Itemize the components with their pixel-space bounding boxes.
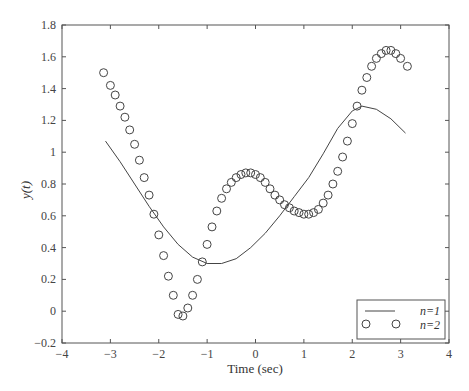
legend-label-n1: n=1: [420, 304, 440, 318]
y-tick-label: 0.6: [41, 209, 56, 223]
x-tick-label: −3: [104, 347, 117, 361]
y-tick-label: −0.2: [34, 336, 56, 350]
x-tick-label: 0: [253, 347, 259, 361]
y-tick-label: 0: [50, 304, 56, 318]
x-tick-label: −2: [152, 347, 165, 361]
x-tick-label: 3: [398, 347, 404, 361]
x-tick-label: 1: [301, 347, 307, 361]
x-tick-label: −4: [56, 347, 69, 361]
y-tick-label: 1.2: [41, 113, 56, 127]
y-tick-label: 1.4: [41, 82, 56, 96]
y-tick-label: 1: [50, 145, 56, 159]
y-tick-label: 1.6: [41, 50, 56, 64]
x-axis-label: Time (sec): [227, 361, 283, 376]
y-axis-label: y(t): [18, 181, 33, 201]
plot-area: [62, 25, 449, 343]
legend: n=1 n=2: [357, 300, 445, 339]
chart-figure: −4−3−2−101234 −0.200.20.40.60.811.21.41.…: [0, 0, 469, 391]
y-tick-labels: −0.200.20.40.60.811.21.41.61.8: [34, 18, 56, 350]
y-tick-label: 0.4: [41, 241, 56, 255]
legend-label-n2: n=2: [420, 318, 440, 332]
x-tick-labels: −4−3−2−101234: [56, 347, 452, 361]
x-tick-label: 4: [446, 347, 452, 361]
x-tick-label: 2: [349, 347, 355, 361]
y-tick-label: 1.8: [41, 18, 56, 32]
y-tick-label: 0.8: [41, 177, 56, 191]
x-tick-label: −1: [201, 347, 214, 361]
y-tick-label: 0.2: [41, 272, 56, 286]
